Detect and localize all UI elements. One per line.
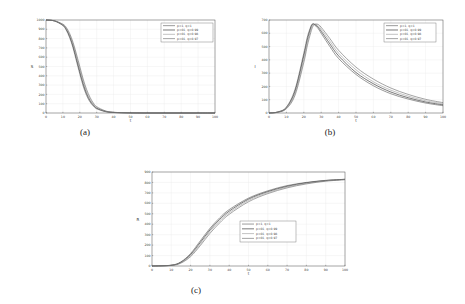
- x-tick-label: 70: [285, 268, 289, 272]
- chart-panel-c: 0102030405060708090100010020030040050060…: [120, 145, 360, 304]
- y-axis-label: S: [31, 64, 34, 69]
- y-tick-label: 500: [261, 45, 267, 49]
- y-tick-label: 100: [261, 98, 267, 102]
- x-axis-label: t: [130, 118, 132, 123]
- x-tick-label: 100: [440, 115, 446, 119]
- y-tick-label: 300: [38, 83, 44, 87]
- x-tick-label: 60: [371, 115, 375, 119]
- x-axis-label: t: [355, 118, 357, 123]
- caption-a: (a): [65, 127, 105, 137]
- x-tick-label: 90: [424, 115, 428, 119]
- legend-label: p=01, q=0.99: [256, 227, 277, 231]
- y-axis-label: R: [137, 217, 140, 222]
- y-tick-label: 0: [148, 264, 150, 268]
- legend: p=1, q=1p=01, q=0.99p=01, q=0.98p=01, q=…: [161, 23, 213, 42]
- x-tick-label: 80: [179, 115, 183, 119]
- y-tick-label: 300: [261, 71, 267, 75]
- x-tick-label: 80: [304, 268, 308, 272]
- x-tick-label: 70: [162, 115, 166, 119]
- x-tick-label: 60: [266, 268, 270, 272]
- y-tick-label: 900: [144, 170, 150, 174]
- chart-panel-b: 0102030405060708090100010020030040050060…: [232, 0, 465, 145]
- x-tick-label: 30: [95, 115, 99, 119]
- y-tick-label: 200: [38, 93, 44, 97]
- y-tick-label: 800: [144, 181, 150, 185]
- chart-panel-a: 0102030405060708090100010020030040050060…: [0, 0, 232, 145]
- y-tick-label: 400: [261, 58, 267, 62]
- y-tick-label: 200: [144, 243, 150, 247]
- x-axis-label: t: [248, 271, 250, 276]
- x-tick-label: 40: [227, 268, 231, 272]
- y-tick-label: 200: [261, 85, 267, 89]
- legend-label: p=01, q=0.97: [256, 236, 277, 240]
- x-tick-label: 100: [212, 115, 218, 119]
- caption-b: (b): [310, 127, 350, 137]
- x-tick-label: 20: [189, 268, 193, 272]
- y-tick-label: 600: [144, 201, 150, 205]
- x-tick-label: 10: [169, 268, 173, 272]
- y-axis-label: I: [254, 64, 255, 69]
- x-tick-label: 40: [112, 115, 116, 119]
- chart-c-svg: 0102030405060708090100010020030040050060…: [120, 145, 360, 304]
- y-tick-label: 0: [42, 111, 44, 115]
- x-tick-label: 80: [406, 115, 410, 119]
- y-tick-label: 500: [144, 212, 150, 216]
- x-tick-label: 20: [78, 115, 82, 119]
- x-tick-label: 10: [284, 115, 288, 119]
- caption-c: (c): [176, 285, 216, 295]
- x-tick-label: 40: [337, 115, 341, 119]
- x-tick-label: 90: [196, 115, 200, 119]
- y-tick-label: 400: [144, 222, 150, 226]
- y-tick-label: 500: [38, 65, 44, 69]
- legend-label: p=1, q=1: [256, 222, 271, 226]
- legend: p=1, q=1p=01, q=0.99p=01, q=0.98p=01, q=…: [240, 221, 296, 242]
- y-tick-label: 700: [144, 191, 150, 195]
- x-tick-label: 0: [45, 115, 47, 119]
- legend-label: p=01, q=0.97: [400, 37, 421, 41]
- x-tick-label: 30: [208, 268, 212, 272]
- legend: p=1, q=1p=01, q=0.99p=01, q=0.98p=01, q=…: [384, 23, 436, 42]
- y-tick-label: 400: [38, 74, 44, 78]
- x-tick-label: 0: [268, 115, 270, 119]
- x-tick-label: 0: [151, 268, 153, 272]
- y-tick-label: 0: [265, 111, 267, 115]
- y-tick-label: 300: [144, 233, 150, 237]
- y-tick-label: 100: [38, 102, 44, 106]
- y-tick-label: 100: [144, 254, 150, 258]
- y-tick-label: 1000: [36, 18, 44, 22]
- y-tick-label: 700: [261, 18, 267, 22]
- legend-label: p=01, q=0.98: [256, 232, 277, 236]
- x-tick-label: 10: [61, 115, 65, 119]
- chart-a-svg: 0102030405060708090100010020030040050060…: [0, 0, 232, 145]
- x-tick-label: 70: [389, 115, 393, 119]
- y-tick-label: 900: [38, 27, 44, 31]
- x-tick-label: 100: [342, 268, 348, 272]
- y-tick-label: 800: [38, 37, 44, 41]
- y-tick-label: 600: [38, 55, 44, 59]
- y-tick-label: 600: [261, 31, 267, 35]
- x-tick-label: 60: [145, 115, 149, 119]
- legend-label: p=01, q=0.97: [177, 37, 198, 41]
- x-tick-label: 20: [302, 115, 306, 119]
- x-tick-label: 30: [319, 115, 323, 119]
- chart-b-svg: 0102030405060708090100010020030040050060…: [232, 0, 465, 145]
- y-tick-label: 700: [38, 46, 44, 50]
- x-tick-label: 90: [324, 268, 328, 272]
